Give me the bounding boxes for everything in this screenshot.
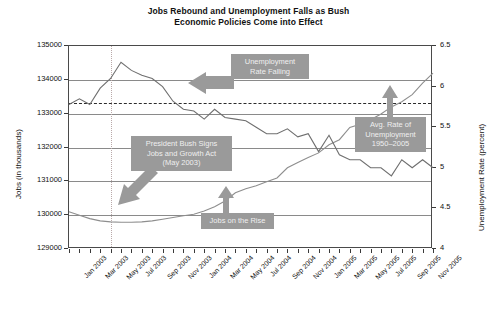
x-axis-tickmark [423, 249, 424, 253]
x-axis-tickmark [204, 249, 205, 253]
x-axis-tickmark [256, 249, 257, 253]
x-axis-tickmark [163, 249, 164, 253]
y2-axis-title: Unemployment Rate (percent) [477, 124, 486, 231]
x-axis-tickmark [267, 249, 268, 253]
chart-title-line-1: Jobs Rebound and Unemployment Falls as B… [0, 6, 497, 17]
y2-axis-tick-label: 6 [440, 81, 444, 90]
x-axis-tickmark [381, 249, 382, 253]
chart-title-line-2: Economic Policies Come into Effect [0, 17, 497, 28]
y-axis-tick-label: 129000 [0, 243, 62, 252]
x-axis-tickmark [142, 249, 143, 253]
x-axis-tickmark [173, 249, 174, 253]
x-axis-tickmark [121, 249, 122, 253]
annotation-line: 1950–2005 [360, 139, 421, 149]
annotation-arrow-up [381, 85, 399, 121]
annotation-unemployment-rate-falling: Unemployment Rate Falling [231, 54, 309, 79]
y-axis-tick-label: 131000 [0, 175, 62, 184]
annotation-line: Unemployment [360, 130, 421, 140]
y2-axis-tick-label: 6.5 [440, 40, 450, 49]
annotation-line: Rate Falling [236, 67, 304, 77]
chart-root: Jobs Rebound and Unemployment Falls as B… [0, 0, 497, 311]
x-axis-tickmark [100, 249, 101, 253]
annotation-line: Unemployment [236, 57, 304, 67]
y-axis-tick-label: 133000 [0, 108, 62, 117]
annotation-line: President Bush Signs [136, 139, 227, 149]
annotation-line: Jobs and Growth Act [136, 149, 227, 159]
x-axis-tickmark [287, 249, 288, 253]
x-axis-tickmark [225, 249, 226, 253]
x-axis-tickmark [308, 249, 309, 253]
y2-axis-tick-label: 5 [440, 162, 444, 171]
x-axis-tickmark [90, 249, 91, 253]
x-axis-tickmark [329, 249, 330, 253]
y2-axis-tick-label: 4 [440, 243, 444, 252]
x-axis-tickmark [371, 249, 372, 253]
x-axis-tickmark [235, 249, 236, 253]
x-axis-tickmark [69, 249, 70, 253]
x-axis-tickmark [79, 249, 80, 253]
annotation-arrow-left [186, 72, 236, 98]
x-axis-tickmark [111, 249, 112, 253]
annotation-line: Jobs on the Rise [206, 216, 269, 226]
y2-axis-tick-label: 4.5 [440, 202, 450, 211]
x-axis-tickmark [298, 249, 299, 253]
annotation-line: Avg. Rate of [360, 120, 421, 130]
y-axis-tick-label: 134000 [0, 74, 62, 83]
annotation-arrow-up-jobs [217, 186, 235, 218]
y-axis-tick-label: 130000 [0, 209, 62, 218]
x-axis-tickmark [215, 249, 216, 253]
chart-title: Jobs Rebound and Unemployment Falls as B… [0, 6, 497, 28]
x-axis-tickmark [339, 249, 340, 253]
x-axis-tickmark [433, 249, 434, 253]
x-axis-tickmark [350, 249, 351, 253]
x-axis-tickmark [360, 249, 361, 253]
annotation-avg-rate-unemployment: Avg. Rate of Unemployment 1950–2005 [355, 117, 426, 152]
y-axis-tick-label: 132000 [0, 142, 62, 151]
x-axis-tickmark [402, 249, 403, 253]
x-axis-tickmark [131, 249, 132, 253]
x-axis-tickmark [152, 249, 153, 253]
x-axis-tickmark [277, 249, 278, 253]
x-axis-tickmark [246, 249, 247, 253]
y-axis-title: Jobs (in thousands) [14, 129, 23, 199]
x-axis-tickmark [319, 249, 320, 253]
y-axis-tickmark [64, 248, 68, 249]
y2-axis-tick-label: 5.5 [440, 121, 450, 130]
x-axis-tickmark [391, 249, 392, 253]
annotation-arrow-down-left [114, 165, 160, 207]
annotation-jobs-on-the-rise: Jobs on the Rise [201, 213, 274, 229]
y-axis-tick-label: 135000 [0, 40, 62, 49]
x-axis-tickmark [412, 249, 413, 253]
x-axis-tickmark [183, 249, 184, 253]
x-axis-tickmark [194, 249, 195, 253]
